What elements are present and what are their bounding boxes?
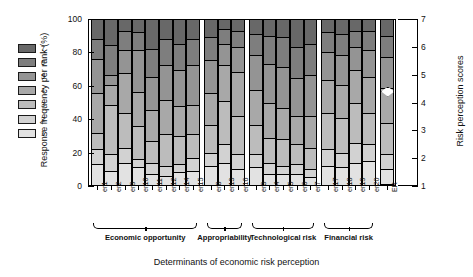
brace-group-2 [252,223,315,229]
y2-tick-label-6: 6 [421,42,443,52]
segment-er9-rank3 [118,114,132,149]
segment-er4-rank3 [263,139,277,164]
bar-er5[interactable] [276,20,290,185]
segment-er19-rank5 [349,48,363,71]
bar-er7[interactable] [304,20,318,185]
segment-er19-rank7 [349,20,363,32]
segment-er13-rank2 [218,145,232,163]
x-tick-label-er11: er11 [155,178,164,192]
segment-er10-rank2 [132,160,146,168]
x-tick-label-er20: er20 [372,178,381,192]
segment-er14-rank5 [173,71,187,107]
x-tick-label-er16: er16 [241,178,250,192]
segment-er12-rank6 [159,40,173,66]
x-tick-er11 [152,186,153,190]
segment-er14-rank3 [173,137,187,165]
x-tick-label-er17: er17 [331,178,340,192]
x-tick-er6 [297,186,298,190]
x-tick-er16 [238,186,239,190]
segment-er13-rank4 [218,66,232,102]
bar-er14[interactable] [173,20,187,185]
y2-tick-label-7: 7 [421,14,443,24]
x-tick-label-er7: er7 [313,182,322,192]
segment-er16-rank2 [231,155,245,170]
bar-er10[interactable] [132,20,146,185]
segment-er8-rank4 [204,94,218,125]
x-tick-label-er18: er18 [345,178,354,192]
bar-er11[interactable] [145,20,159,185]
segment-er10-rank7 [132,20,146,33]
x-tick-er7 [310,186,311,190]
x-tick-er12 [166,186,167,190]
bar-er18[interactable] [335,20,349,185]
x-axis-title: Determinants of economic risk perception [0,257,473,267]
legend-swatch-1 [18,129,36,138]
plot-area [88,19,396,186]
bar-er20[interactable] [362,20,376,185]
bar-er13[interactable] [218,20,232,185]
bar-er1[interactable] [91,20,105,185]
segment-er9-rank6 [118,32,132,52]
segment-er6-rank2 [290,165,304,175]
x-tick-label-er4: er4 [272,182,281,192]
segment-er7-rank6 [304,45,318,76]
segment-er15-rank2 [186,159,200,172]
y-tick-label-80: 80 [56,47,82,57]
segment-er9-rank4 [118,74,132,114]
x-tick-label-er1: er1 [100,182,109,192]
x-tick-label-er3: er3 [259,182,268,192]
segment-er13-rank3 [218,102,232,145]
segment-er7-rank5 [304,76,318,117]
bar-er17[interactable] [321,20,335,185]
x-tick-label-er15: er15 [196,178,205,192]
segment-er19-rank2 [349,144,363,164]
segment-er17-rank7 [321,20,335,33]
segment-er3-rank7 [249,20,263,35]
segment-er3-rank6 [249,35,263,56]
bar-er16[interactable] [231,20,245,185]
bar-er12[interactable] [159,20,173,185]
segment-er19-rank3 [349,104,363,144]
segment-ER-rank2 [380,155,394,170]
y-tick-100 [88,19,94,20]
segment-er4-rank5 [263,65,277,105]
y2-tick-7 [412,19,418,20]
segment-er11-rank2 [145,164,159,176]
bar-er15[interactable] [186,20,200,185]
bar-er19[interactable] [349,20,363,185]
bar-er6[interactable] [290,20,304,185]
bar-er2[interactable] [104,20,118,185]
segment-er8-rank7 [204,20,218,38]
x-tick-label-er2: er2 [114,182,123,192]
x-tick-label-er19: er19 [358,178,367,192]
segment-er5-rank3 [276,140,290,166]
bar-er9[interactable] [118,20,132,185]
segment-er16-rank4 [231,73,245,118]
segment-er20-rank2 [362,145,376,162]
segment-er3-rank2 [249,155,263,168]
legend-swatch-3 [18,100,36,109]
y2-tick-label-3: 3 [421,125,443,135]
segment-er15-rank3 [186,135,200,158]
brace-group-3 [324,223,373,229]
bar-ER[interactable] [380,20,394,185]
x-tick-label-er10: er10 [141,178,150,192]
segment-er10-rank6 [132,33,146,51]
segment-er9-rank5 [118,51,132,74]
bar-er4[interactable] [263,20,277,185]
segment-er14-rank2 [173,165,187,173]
segment-er1-rank6 [91,40,105,60]
segment-er12-rank4 [159,101,173,136]
x-tick-er4 [269,186,270,190]
bar-er8[interactable] [204,20,218,185]
segment-er1-rank5 [91,60,105,95]
segment-er15-rank6 [186,40,200,66]
x-tick-ER [387,186,388,190]
x-tick-label-er12: er12 [169,178,178,192]
segment-ER-rank7 [380,20,394,37]
segment-er6-rank3 [290,145,304,165]
x-tick-er10 [138,186,139,190]
y-tick-label-40: 40 [56,114,82,124]
bar-er3[interactable] [249,20,263,185]
segment-ER-rank3 [380,124,394,155]
